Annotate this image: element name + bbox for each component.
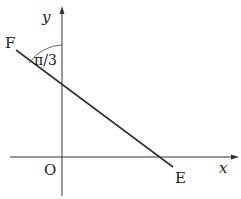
y-axis-arrow-icon xyxy=(60,6,65,14)
y-axis-label: y xyxy=(41,8,51,26)
x-axis-arrow-icon xyxy=(231,155,239,160)
point-e-label: E xyxy=(175,169,186,187)
coordinate-diagram: y x O F E π/3 xyxy=(0,0,241,199)
x-axis-label: x xyxy=(219,159,228,177)
origin-label: O xyxy=(44,161,56,179)
point-f-label: F xyxy=(5,34,15,52)
angle-label: π/3 xyxy=(34,52,57,68)
